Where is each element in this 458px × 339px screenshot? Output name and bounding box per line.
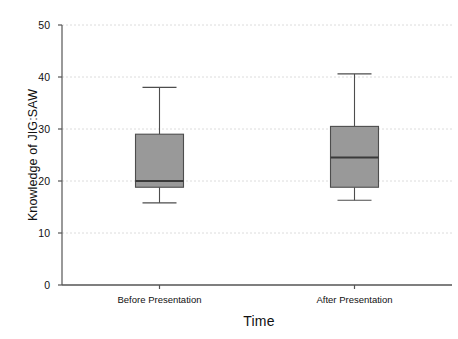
y-tick-label-10: 10 — [22, 228, 50, 239]
y-tick-label-0: 0 — [22, 280, 50, 291]
boxplot-chart: Knowledge of JIG:SAW Time 01020304050Bef… — [0, 0, 458, 339]
box-group-1 — [331, 74, 379, 200]
y-tick-label-50: 50 — [22, 20, 50, 31]
box-group-0 — [136, 87, 184, 202]
x-tick-label-1: After Presentation — [285, 295, 425, 305]
y-tick-label-40: 40 — [22, 72, 50, 83]
x-tick-label-0: Before Presentation — [90, 295, 230, 305]
plot-area — [0, 0, 458, 339]
y-tick-label-20: 20 — [22, 176, 50, 187]
box-iqr — [136, 134, 184, 187]
y-tick-label-30: 30 — [22, 124, 50, 135]
